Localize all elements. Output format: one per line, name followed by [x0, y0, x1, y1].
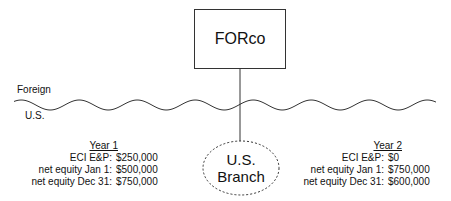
us-branch: U.S. Branch: [203, 143, 279, 193]
row-label: net equity Dec 31:: [300, 176, 384, 188]
row-label: ECI E&P:: [300, 152, 384, 164]
forco-label: FORco: [215, 30, 266, 48]
branch-label-line2: Branch: [217, 168, 265, 185]
year1-title: Year 1: [30, 140, 170, 152]
year1-row: net equity Dec 31:$750,000: [30, 176, 170, 188]
row-value: $750,000: [112, 176, 158, 188]
year2-title: Year 2: [300, 140, 450, 152]
row-label: net equity Dec 31:: [30, 176, 112, 188]
row-label: net equity Jan 1:: [300, 164, 384, 176]
row-value: $0: [384, 152, 399, 164]
year1-row: net equity Jan 1:$500,000: [30, 164, 170, 176]
row-label: net equity Jan 1:: [30, 164, 112, 176]
row-label: ECI E&P:: [30, 152, 112, 164]
row-value: $250,000: [112, 152, 158, 164]
row-value: $600,000: [384, 176, 430, 188]
us-label: U.S.: [25, 110, 44, 121]
border-wave: [14, 100, 436, 110]
row-value: $750,000: [384, 164, 430, 176]
year2-row: ECI E&P:$0: [300, 152, 450, 164]
year2-row: net equity Dec 31:$600,000: [300, 176, 450, 188]
year2-block: Year 2 ECI E&P:$0 net equity Jan 1:$750,…: [300, 140, 450, 188]
year2-row: net equity Jan 1:$750,000: [300, 164, 450, 176]
year1-block: Year 1 ECI E&P:$250,000 net equity Jan 1…: [30, 140, 170, 188]
branch-label-line1: U.S.: [226, 151, 255, 168]
row-value: $500,000: [112, 164, 158, 176]
year1-row: ECI E&P:$250,000: [30, 152, 170, 164]
foreign-label: Foreign: [17, 84, 51, 95]
forco-entity-box: FORco: [194, 9, 286, 69]
